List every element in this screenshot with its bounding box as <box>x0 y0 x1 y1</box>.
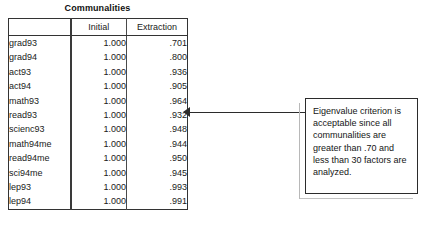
row-label: lep94 <box>9 194 71 209</box>
table-row: read93 1.000 .932 <box>9 108 188 122</box>
row-label: sci94me <box>9 166 71 180</box>
table-row: lep94 1.000 .991 <box>9 194 188 209</box>
cell-extraction: .936 <box>127 65 188 79</box>
cell-initial: 1.000 <box>71 151 127 165</box>
cell-initial: 1.000 <box>71 50 127 64</box>
cell-extraction: .945 <box>127 166 188 180</box>
cell-extraction: .991 <box>127 194 188 209</box>
cell-extraction: .944 <box>127 137 188 151</box>
cell-extraction: .932 <box>127 108 188 122</box>
row-label: act93 <box>9 65 71 79</box>
row-label: lep93 <box>9 180 71 194</box>
cell-initial: 1.000 <box>71 166 127 180</box>
cell-extraction: .905 <box>127 79 188 93</box>
cell-extraction: .800 <box>127 50 188 64</box>
table-row: grad94 1.000 .800 <box>9 50 188 64</box>
table-row: sci94me 1.000 .945 <box>9 166 188 180</box>
cell-initial: 1.000 <box>71 94 127 108</box>
table-row: grad93 1.000 .701 <box>9 36 188 51</box>
row-label: math94me <box>9 137 71 151</box>
cell-initial: 1.000 <box>71 122 127 136</box>
cell-initial: 1.000 <box>71 108 127 122</box>
table-row: math94me 1.000 .944 <box>9 137 188 151</box>
column-header-extraction: Extraction <box>127 19 188 36</box>
table-body: grad93 1.000 .701 grad94 1.000 .800 act9… <box>9 36 188 210</box>
screenshot-canvas: Communalities Initial Extraction grad93 … <box>0 0 427 228</box>
table-row: scienc93 1.000 .948 <box>9 122 188 136</box>
cell-extraction: .950 <box>127 151 188 165</box>
row-label: grad94 <box>9 50 71 64</box>
page-title: Communalities <box>8 2 187 14</box>
row-label: scienc93 <box>9 122 71 136</box>
table-header-row: Initial Extraction <box>9 19 188 36</box>
row-label: read93 <box>9 108 71 122</box>
table-row: act94 1.000 .905 <box>9 79 188 93</box>
cell-initial: 1.000 <box>71 180 127 194</box>
arrow-left-icon <box>183 107 190 117</box>
column-header-initial: Initial <box>71 19 127 36</box>
row-label: math93 <box>9 94 71 108</box>
cell-extraction: .993 <box>127 180 188 194</box>
annotation-callout: Eigenvalue criterion is acceptable since… <box>305 98 418 194</box>
annotation-leader-line <box>189 112 306 113</box>
cell-initial: 1.000 <box>71 36 127 51</box>
table-row: lep93 1.000 .993 <box>9 180 188 194</box>
annotation-text: Eigenvalue criterion is acceptable since… <box>313 105 411 178</box>
callout-shadow-bottom <box>300 198 413 199</box>
cell-extraction: .948 <box>127 122 188 136</box>
row-label: act94 <box>9 79 71 93</box>
table-row: act93 1.000 .936 <box>9 65 188 79</box>
row-label: read94me <box>9 151 71 165</box>
cell-initial: 1.000 <box>71 194 127 209</box>
table-row: math93 1.000 .964 <box>9 94 188 108</box>
table-header: Initial Extraction <box>9 19 188 36</box>
cell-extraction: .964 <box>127 94 188 108</box>
row-label: grad93 <box>9 36 71 51</box>
cell-initial: 1.000 <box>71 65 127 79</box>
callout-shadow-left <box>299 103 300 199</box>
cell-extraction: .701 <box>127 36 188 51</box>
column-header-variable <box>9 19 71 36</box>
cell-initial: 1.000 <box>71 137 127 151</box>
communalities-table: Initial Extraction grad93 1.000 .701 gra… <box>8 18 188 210</box>
table-row: read94me 1.000 .950 <box>9 151 188 165</box>
cell-initial: 1.000 <box>71 79 127 93</box>
